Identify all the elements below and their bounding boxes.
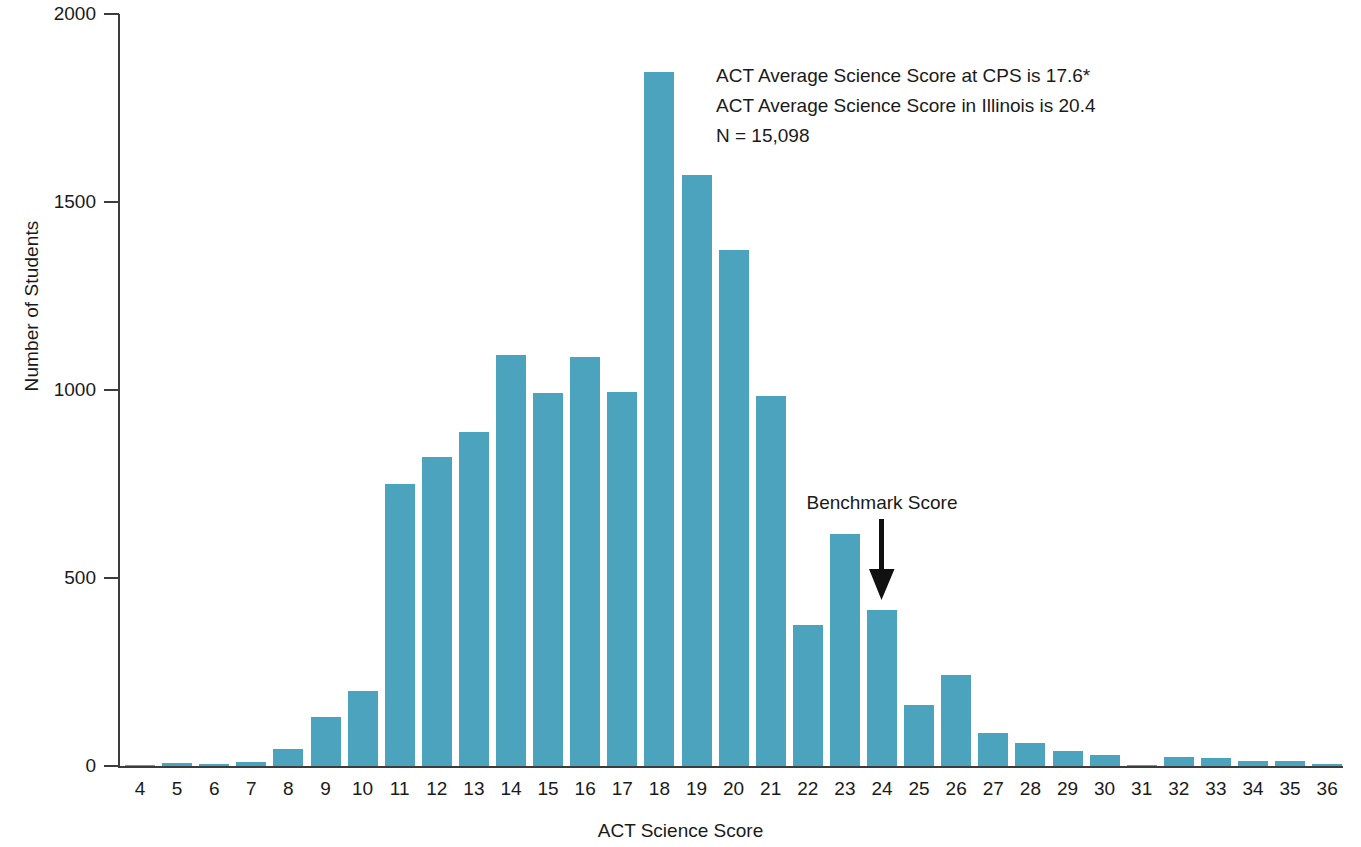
x-axis-tick-label-27: 27: [975, 778, 1012, 800]
bar-14: [496, 355, 526, 766]
x-axis-tick-label-14: 14: [493, 778, 530, 800]
x-axis-tick-label-35: 35: [1272, 778, 1309, 800]
y-axis-tick-label-text: 1500: [36, 192, 96, 211]
y-axis-tick-label-text: 0: [36, 756, 96, 775]
x-axis-tick-label-16: 16: [567, 778, 604, 800]
bar-30: [1090, 755, 1120, 766]
bar-26: [941, 675, 971, 766]
x-axis-tick-label-19: 19: [678, 778, 715, 800]
y-axis-tick-label-text: 500: [36, 568, 96, 587]
y-axis-tick-label: 0: [30, 756, 96, 775]
x-axis-tick-label-11: 11: [381, 778, 418, 800]
y-axis-tick: [104, 577, 119, 579]
x-axis-tick-label-13: 13: [455, 778, 492, 800]
x-axis-tick-label-9: 9: [307, 778, 344, 800]
down-arrow-icon: [865, 519, 899, 601]
act-science-score-histogram: Number of Students 0500100015002000 4567…: [0, 0, 1361, 847]
x-axis-tick-label-21: 21: [752, 778, 789, 800]
stats-line-illinois: ACT Average Science Score in Illinois is…: [716, 91, 1096, 121]
bar-27: [978, 733, 1008, 766]
x-axis-tick-label-7: 7: [233, 778, 270, 800]
stats-line-cps: ACT Average Science Score at CPS is 17.6…: [716, 61, 1096, 91]
x-axis-tick-label-4: 4: [122, 778, 159, 800]
x-axis-tick-label-24: 24: [864, 778, 901, 800]
bar-8: [273, 749, 303, 766]
y-axis-tick: [104, 201, 119, 203]
bar-24: [867, 610, 897, 766]
bar-20: [719, 250, 749, 766]
bar-13: [459, 432, 489, 766]
x-axis-tick-label-34: 34: [1235, 778, 1272, 800]
x-axis-tick-label-5: 5: [159, 778, 196, 800]
x-axis-tick-label-10: 10: [344, 778, 381, 800]
x-axis-line: [118, 766, 1343, 768]
x-axis-tick-label-12: 12: [418, 778, 455, 800]
x-axis-tick-label-36: 36: [1309, 778, 1346, 800]
x-axis-tick-label-22: 22: [789, 778, 826, 800]
x-axis-tick-label-28: 28: [1012, 778, 1049, 800]
x-axis-tick-label-32: 32: [1160, 778, 1197, 800]
x-axis-tick-label-30: 30: [1086, 778, 1123, 800]
x-axis-tick-label-29: 29: [1049, 778, 1086, 800]
bar-12: [422, 457, 452, 766]
bar-15: [533, 393, 563, 766]
bar-22: [793, 625, 823, 766]
bar-33: [1201, 758, 1231, 766]
x-axis-tick-label-26: 26: [938, 778, 975, 800]
y-axis-tick-label-text: 1000: [36, 380, 96, 399]
x-axis-tick-label-23: 23: [826, 778, 863, 800]
bar-17: [607, 392, 637, 766]
bar-32: [1164, 757, 1194, 766]
bar-18: [644, 72, 674, 766]
bar-29: [1053, 751, 1083, 766]
bar-21: [756, 396, 786, 766]
bar-16: [570, 357, 600, 766]
benchmark-label: Benchmark Score: [782, 492, 982, 514]
bar-11: [385, 484, 415, 766]
x-axis-tick-label-25: 25: [901, 778, 938, 800]
y-axis-tick: [104, 13, 119, 15]
x-axis-tick-label-17: 17: [604, 778, 641, 800]
x-axis-tick-label-18: 18: [641, 778, 678, 800]
y-axis-tick-label-text: 2000: [36, 4, 96, 23]
bar-9: [311, 717, 341, 766]
bar-10: [348, 691, 378, 766]
bar-23: [830, 534, 860, 766]
x-axis-tick-label-6: 6: [196, 778, 233, 800]
stats-annotation: ACT Average Science Score at CPS is 17.6…: [716, 61, 1096, 151]
x-axis-tick-label-8: 8: [270, 778, 307, 800]
bar-25: [904, 705, 934, 766]
x-axis-tick-label-15: 15: [530, 778, 567, 800]
x-axis-title: ACT Science Score: [0, 820, 1361, 842]
y-axis-tick: [104, 389, 119, 391]
y-axis-tick-label: 1500: [30, 192, 96, 211]
stats-line-n: N = 15,098: [716, 121, 1096, 151]
x-axis-tick-label-33: 33: [1197, 778, 1234, 800]
y-axis-tick-label: 1000: [30, 380, 96, 399]
bar-28: [1015, 743, 1045, 766]
y-axis-tick-label: 2000: [30, 4, 96, 23]
bar-19: [682, 175, 712, 766]
y-axis-tick-label: 500: [30, 568, 96, 587]
y-axis-tick: [104, 765, 119, 767]
x-axis-tick-label-31: 31: [1123, 778, 1160, 800]
x-axis-tick-label-20: 20: [715, 778, 752, 800]
